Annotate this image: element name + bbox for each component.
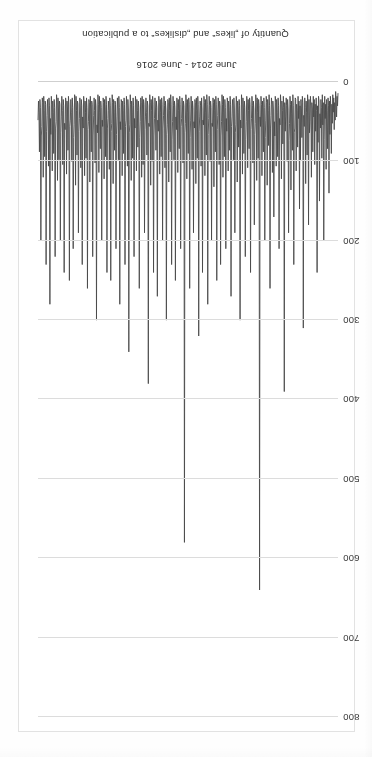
- gridline-400: [38, 399, 338, 400]
- y-tick-label-300: 300: [343, 315, 359, 325]
- gridline-800: [38, 716, 338, 717]
- gridline-100: [38, 160, 338, 161]
- y-tick-label-400: 400: [343, 395, 359, 405]
- y-tick-label-200: 200: [343, 236, 359, 246]
- y-tick-label-700: 700: [343, 633, 359, 643]
- y-tick-label-500: 500: [343, 474, 359, 484]
- y-tick-label-100: 100: [343, 157, 359, 167]
- y-tick-label-800: 800: [343, 712, 359, 722]
- y-tick-label-0: 0: [343, 77, 348, 87]
- x-axis-title: June 2014 - June 2016: [136, 60, 236, 71]
- y-tick-label-600: 600: [343, 554, 359, 564]
- plot-area: 0100200300400500600700800: [38, 82, 338, 717]
- gridline-0: [38, 81, 338, 82]
- gridline-500: [38, 478, 338, 479]
- gridline-200: [38, 240, 338, 241]
- data-series-line: [38, 82, 338, 717]
- rotated-figure-container: 0100200300400500600700800 June 2014 - Ju…: [18, 20, 355, 732]
- gridline-700: [38, 637, 338, 638]
- scan-edge-shadow-right: [364, 0, 372, 757]
- scanned-page-surface: 0100200300400500600700800 June 2014 - Ju…: [0, 0, 372, 757]
- scan-edge-shadow-bottom: [0, 747, 372, 757]
- gridline-300: [38, 319, 338, 320]
- gridline-600: [38, 557, 338, 558]
- chart-frame: 0100200300400500600700800 June 2014 - Ju…: [18, 20, 355, 732]
- y-axis-title: Quantity of „likes“ and „dislikes“ to a …: [17, 29, 354, 40]
